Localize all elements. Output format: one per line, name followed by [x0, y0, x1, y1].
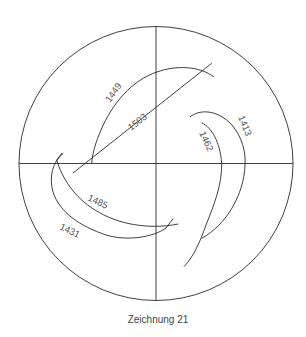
label-1462: 1462 — [197, 129, 216, 153]
label-1449: 1449 — [103, 81, 124, 105]
label-1503: 1503 — [125, 111, 148, 133]
curve-1485 — [57, 153, 179, 226]
curve-1413 — [190, 112, 245, 238]
curve-1449 — [92, 68, 214, 164]
label-1485: 1485 — [86, 192, 110, 211]
label-1413: 1413 — [236, 114, 254, 138]
figure-caption: Zeichnung 21 — [0, 314, 306, 325]
label-1431: 1431 — [58, 221, 82, 240]
stereonet-diagram: 1449 1503 1413 1462 1485 1431 — [0, 0, 306, 337]
